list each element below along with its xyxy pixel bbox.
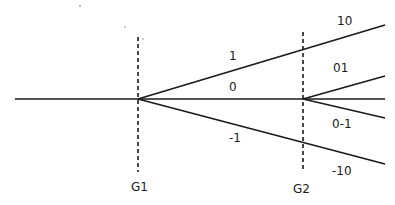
label-branch-1: 1 — [229, 49, 237, 63]
label-branch-0-1: 0-1 — [332, 117, 352, 131]
label-branch-0: 0 — [229, 80, 237, 94]
speck — [124, 26, 125, 27]
label-branch-minus1: -1 — [229, 131, 241, 145]
label-branch-01: 01 — [333, 61, 348, 75]
branching-diagram: 1 0 -1 10 01 0-1 -10 G1 G2 — [0, 0, 395, 205]
label-g2: G2 — [293, 182, 310, 196]
branch-0-1 — [303, 99, 385, 118]
speck — [142, 38, 143, 39]
label-branch-10: 10 — [337, 14, 352, 28]
speck — [79, 5, 81, 7]
label-branch-minus10: -10 — [332, 164, 352, 178]
label-g1: G1 — [131, 180, 148, 194]
branch-01 — [303, 76, 385, 99]
